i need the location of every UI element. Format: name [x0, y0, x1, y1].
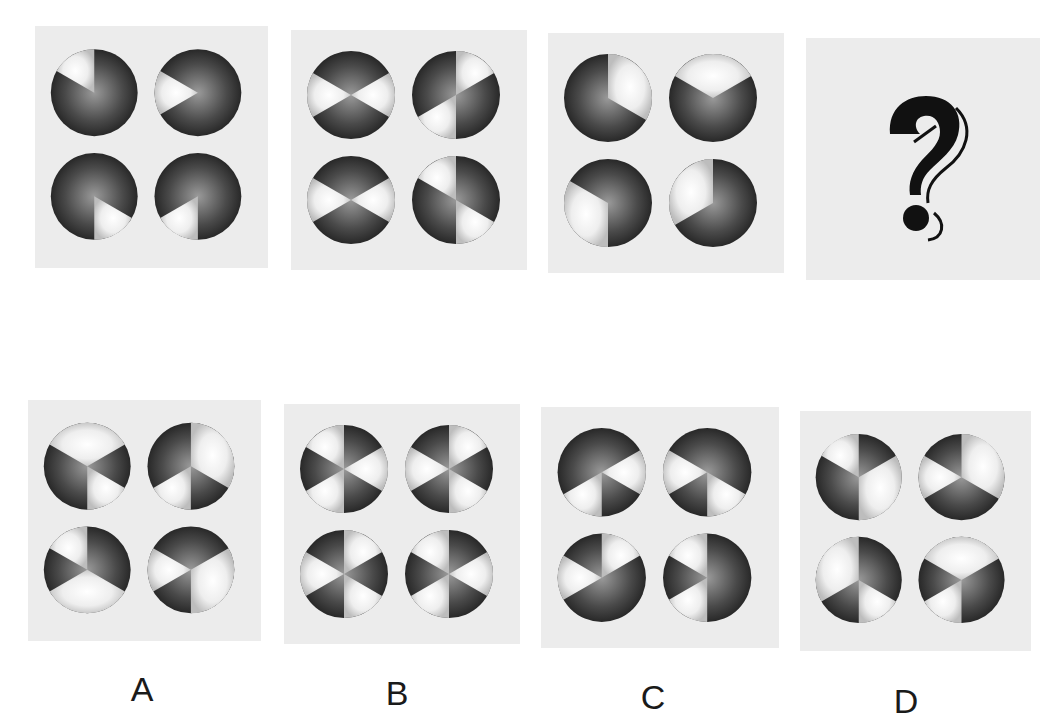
option-panel-b[interactable] [284, 404, 520, 644]
question-panel-unknown [806, 38, 1040, 280]
option-label-c: C [623, 680, 683, 714]
sphere [51, 49, 138, 136]
sphere [816, 434, 902, 520]
sphere [51, 153, 138, 240]
sphere [44, 526, 131, 613]
option-panel-d[interactable] [800, 411, 1031, 651]
sphere [307, 156, 395, 244]
sphere [663, 534, 751, 622]
sphere [300, 530, 388, 618]
sphere [669, 159, 757, 247]
question-panel-3 [548, 33, 784, 273]
sphere [44, 423, 131, 510]
sphere [147, 423, 234, 510]
sphere [307, 51, 395, 139]
sphere-group [800, 411, 1031, 651]
sphere [412, 156, 500, 244]
question-panel-2 [291, 30, 527, 270]
sphere [412, 51, 500, 139]
sphere [405, 425, 493, 513]
sphere [558, 428, 646, 516]
sphere-group [35, 26, 268, 268]
sphere [816, 537, 902, 623]
sphere [564, 54, 652, 142]
sphere [669, 54, 757, 142]
sphere [147, 526, 234, 613]
option-label-d: D [876, 684, 936, 718]
sphere-group [548, 33, 784, 273]
sphere [918, 537, 1004, 623]
option-label-b: B [367, 676, 427, 710]
question-panel-1 [35, 26, 268, 268]
option-label-a: A [112, 672, 172, 706]
sphere-group [284, 404, 520, 644]
sphere [154, 49, 241, 136]
sphere-group [291, 30, 527, 270]
sphere-group [541, 407, 779, 648]
sphere [405, 530, 493, 618]
option-panel-a[interactable] [28, 400, 261, 641]
sphere [663, 428, 751, 516]
sphere-group [28, 400, 261, 641]
option-panel-c[interactable] [541, 407, 779, 648]
question-mark-icon [806, 38, 1040, 280]
sphere [564, 159, 652, 247]
sphere [558, 534, 646, 622]
sphere [918, 434, 1004, 520]
sphere [154, 153, 241, 240]
sphere [300, 425, 388, 513]
